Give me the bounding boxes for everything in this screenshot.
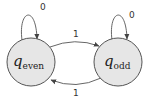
automaton-diagram: 0 0 1 1 qeven qodd	[0, 0, 149, 98]
loop-odd-label: 0	[129, 10, 135, 20]
edge-even-to-odd	[50, 42, 99, 47]
edge-even-to-odd-label: 1	[73, 29, 79, 39]
edge-odd-to-even	[51, 78, 101, 85]
state-q-even: qeven	[7, 38, 55, 86]
state-q-odd: qodd	[94, 38, 142, 86]
edge-odd-to-even-label: 1	[73, 88, 79, 98]
self-loop-odd	[111, 15, 127, 40]
self-loop-even	[21, 15, 37, 40]
loop-even-label: 0	[40, 2, 46, 12]
